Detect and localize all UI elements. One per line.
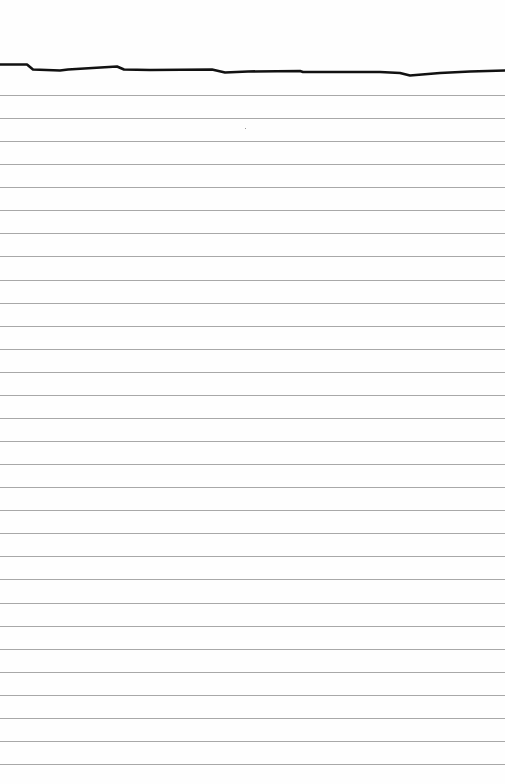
ruled-line xyxy=(0,349,505,350)
ruled-line xyxy=(0,441,505,442)
ruled-line xyxy=(0,418,505,419)
ruled-line xyxy=(0,626,505,627)
ruled-line xyxy=(0,256,505,257)
ruled-line xyxy=(0,672,505,673)
ruled-line xyxy=(0,118,505,119)
ruled-line xyxy=(0,487,505,488)
ruled-line xyxy=(0,372,505,373)
ruled-line xyxy=(0,556,505,557)
ruled-line xyxy=(0,579,505,580)
ruled-line xyxy=(0,395,505,396)
ruled-line xyxy=(0,741,505,742)
ruled-line xyxy=(0,233,505,234)
paper-speck xyxy=(245,128,246,129)
ruled-line xyxy=(0,718,505,719)
ruled-line xyxy=(0,326,505,327)
ruled-line xyxy=(0,533,505,534)
ruled-line xyxy=(0,280,505,281)
ruled-line xyxy=(0,649,505,650)
hand-drawn-header-line xyxy=(0,55,505,85)
ruled-line xyxy=(0,764,505,765)
ruled-line xyxy=(0,187,505,188)
ruled-line xyxy=(0,210,505,211)
ruled-line xyxy=(0,510,505,511)
ruled-line xyxy=(0,95,505,96)
ruled-line xyxy=(0,164,505,165)
lined-paper xyxy=(0,0,505,784)
ruled-line xyxy=(0,141,505,142)
ruled-line xyxy=(0,464,505,465)
ruled-line xyxy=(0,603,505,604)
ruled-line xyxy=(0,303,505,304)
ruled-line xyxy=(0,695,505,696)
